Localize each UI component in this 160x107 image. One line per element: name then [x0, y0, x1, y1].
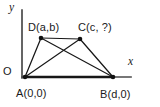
point-label-b: B(d,0)	[100, 89, 131, 100]
y-axis-label: y	[9, 2, 14, 14]
point-label-d: D(a,b)	[28, 22, 59, 33]
point-label-c-text: C(c, ?)	[78, 21, 112, 33]
vertex-dot-d	[39, 36, 44, 41]
diagonal-b-to-d	[41, 38, 113, 77]
point-label-a-text: A(0,0)	[16, 87, 47, 99]
vertex-dot-a	[23, 75, 28, 80]
geometry-figure: y x O D(a,b) C(c, ?) A(0,0) B(d,0)	[0, 0, 160, 107]
edge-d-to-c	[41, 38, 80, 39]
vertex-dots-group	[23, 36, 116, 80]
x-axis-label: x	[128, 56, 133, 68]
vertex-dot-b	[111, 75, 116, 80]
vertex-dot-c	[78, 37, 83, 42]
point-label-c: C(c, ?)	[78, 22, 112, 33]
origin-label: O	[3, 66, 12, 77]
point-label-a: A(0,0)	[16, 88, 47, 99]
trapezoid-group	[25, 38, 113, 77]
edge-c-to-b	[80, 39, 113, 77]
point-label-d-text: D(a,b)	[28, 21, 59, 33]
point-label-b-text: B(d,0)	[100, 88, 131, 100]
